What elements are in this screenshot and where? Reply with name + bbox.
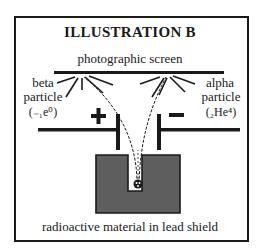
positive-plate (116, 114, 120, 150)
plus-sign-icon (91, 108, 106, 124)
negative-lead (160, 128, 240, 132)
positive-lead (38, 128, 118, 132)
beta-impact-rays-icon (57, 76, 113, 97)
photographic-screen (54, 71, 224, 74)
negative-plate (157, 114, 161, 150)
alpha-impact-rays-icon (140, 76, 195, 97)
minus-sign-icon (169, 113, 184, 117)
radioactive-source-icon (134, 180, 143, 189)
diagram-graphic (0, 0, 260, 252)
